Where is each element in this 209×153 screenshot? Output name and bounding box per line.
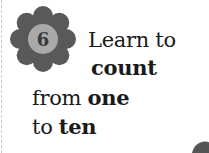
- heading-bold-count: count: [91, 55, 157, 80]
- heading-line-4: to ten: [32, 115, 96, 139]
- heading-bold-ten: ten: [59, 114, 96, 139]
- corner-decoration: [190, 138, 209, 153]
- step-number: 6: [10, 6, 76, 72]
- step-badge: 6: [10, 6, 76, 72]
- heading-text-from: from: [32, 86, 88, 110]
- heading-line-3: from one: [32, 86, 129, 110]
- heading-line-2: count: [91, 56, 157, 80]
- heading-text-to: to: [32, 115, 59, 139]
- heading-line-1: Learn to: [88, 28, 176, 52]
- dotted-cut-edge: [1, 0, 2, 153]
- heading-bold-one: one: [88, 85, 130, 110]
